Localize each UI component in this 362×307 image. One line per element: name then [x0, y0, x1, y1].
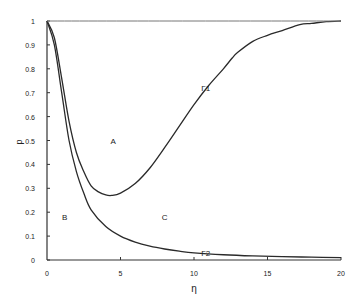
- y-tick-label: 1: [31, 18, 35, 25]
- curves: [47, 21, 341, 258]
- x-tick-label: 20: [337, 270, 345, 277]
- annotation-b: B: [62, 213, 67, 222]
- annotation-a: A: [110, 137, 116, 146]
- y-tick-label: 0.9: [25, 42, 35, 49]
- y-tick-label: 0.8: [25, 66, 35, 73]
- y-tick-label: 0.3: [25, 185, 35, 192]
- annotation-c: C: [162, 213, 168, 222]
- annotation-g1: Γ1: [201, 84, 210, 93]
- x-tick-label: 5: [119, 270, 123, 277]
- curve-gamma2: [47, 21, 341, 258]
- axes: [47, 21, 341, 260]
- y-tick-label: 0.7: [25, 90, 35, 97]
- phase-diagram-chart: 00.10.20.30.40.50.60.70.80.91 05101520 A…: [0, 0, 362, 307]
- y-axis-ticks: 00.10.20.30.40.50.60.70.80.91: [25, 18, 50, 264]
- annotation-g2: Γ2: [201, 249, 210, 258]
- y-tick-label: 0: [31, 257, 35, 264]
- y-tick-label: 0.5: [25, 138, 35, 145]
- y-tick-label: 0.4: [25, 161, 35, 168]
- y-tick-label: 0.6: [25, 114, 35, 121]
- x-tick-label: 15: [264, 270, 272, 277]
- y-axis-label: p: [14, 139, 24, 144]
- x-tick-label: 10: [190, 270, 198, 277]
- y-tick-label: 0.2: [25, 209, 35, 216]
- x-axis-label: η: [191, 283, 197, 294]
- y-tick-label: 0.1: [25, 233, 35, 240]
- x-tick-label: 0: [45, 270, 49, 277]
- curve-gamma1: [47, 21, 341, 196]
- region-labels: ABCΓ1Γ2: [62, 84, 211, 258]
